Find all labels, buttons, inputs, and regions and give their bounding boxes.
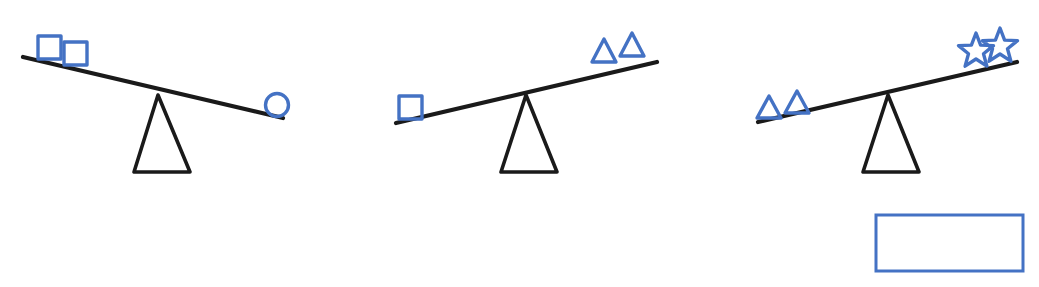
scale-2 [396,33,657,172]
circle-icon [266,94,289,117]
scale-3-fulcrum-icon [863,95,919,172]
square-icon [64,42,87,65]
scale-2-fulcrum-icon [501,95,557,172]
balance-puzzle-figure [0,0,1039,287]
triangle-icon [620,33,644,56]
square-icon [399,96,422,119]
triangle-icon [785,91,809,113]
scale-1-fulcrum-icon [134,95,190,172]
scale-3 [757,28,1018,172]
triangle-icon [757,96,781,118]
square-icon [38,36,61,59]
scale-2-beam [396,62,657,123]
scale-1 [23,36,289,172]
triangle-icon [592,39,616,62]
star-icon [983,28,1018,61]
answer-box[interactable] [876,215,1023,271]
figure-svg [0,0,1039,287]
